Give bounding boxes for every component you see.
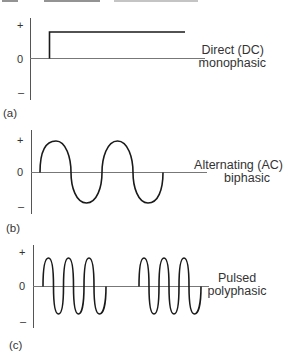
- panel-a-dc-waveform: [50, 32, 186, 59]
- panel-a-tag: (a): [3, 107, 17, 119]
- panel-c-label-line1: Pulsed: [218, 271, 256, 285]
- panel-b-tag: (b): [6, 222, 20, 234]
- panel-a-zero-tick: 0: [17, 53, 23, 65]
- panel-c-minus-tick: –: [20, 315, 27, 327]
- panel-b-alternating-current: + 0 – Alternating (AC) biphasic (b): [6, 130, 283, 234]
- current-waveform-figure: + 0 – Direct (DC) monophasic (a) + 0 – A…: [0, 0, 285, 352]
- panel-b-label-line2: biphasic: [224, 171, 270, 185]
- panel-b-minus-tick: –: [18, 200, 25, 212]
- panel-a-label-line2: monophasic: [199, 56, 266, 70]
- panel-c-pulsed-current: + 0 – Pulsed polyphasic (c): [9, 245, 267, 351]
- panel-c-plus-tick: +: [19, 246, 25, 258]
- panel-c-zero-tick: 0: [19, 280, 25, 292]
- panel-a-label-line1: Direct (DC): [202, 43, 265, 57]
- panel-a-plus-tick: +: [17, 19, 23, 31]
- panel-b-label-line1: Alternating (AC): [194, 158, 283, 172]
- panel-c-label-line2: polyphasic: [207, 284, 266, 298]
- panel-a-direct-current: + 0 – Direct (DC) monophasic (a): [3, 18, 266, 119]
- panel-b-zero-tick: 0: [17, 166, 23, 178]
- panel-c-tag: (c): [9, 339, 23, 351]
- panel-a-minus-tick: –: [18, 86, 25, 98]
- panel-b-plus-tick: +: [17, 134, 23, 146]
